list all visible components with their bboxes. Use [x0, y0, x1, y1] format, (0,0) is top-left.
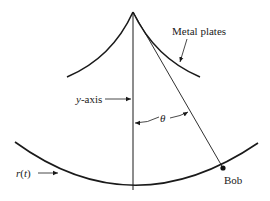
y-axis-label: y-axis [75, 93, 102, 105]
metal-plates-label: Metal plates [172, 25, 226, 37]
bob-trajectory-arc [15, 142, 258, 185]
bob-label: Bob [224, 174, 243, 186]
theta-angle-arc [135, 117, 159, 123]
metal-plates-pointer [180, 39, 187, 62]
bob [220, 165, 225, 170]
right-metal-plate [133, 12, 200, 77]
left-metal-plate [67, 12, 133, 77]
theta-angle-arc-right [170, 112, 188, 118]
theta-label: θ [160, 112, 166, 124]
r-t-label: r(t) [16, 167, 31, 180]
pendulum-diagram: Metal plates y-axis θ r(t) Bob [0, 0, 270, 201]
